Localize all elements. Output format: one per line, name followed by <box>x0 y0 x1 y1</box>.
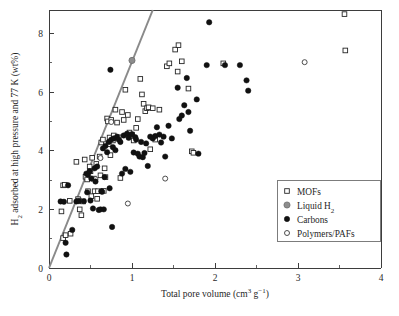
legend-label: MOFs <box>297 187 321 197</box>
data-point <box>173 47 178 52</box>
data-point <box>150 106 155 111</box>
data-point <box>102 166 107 171</box>
data-point <box>95 197 100 202</box>
data-point <box>93 179 98 184</box>
data-point <box>76 198 81 203</box>
legend[interactable]: MOFsLiquid H2CarbonsPolymers/PAFs <box>277 180 380 241</box>
y-tick-label: 4 <box>38 146 43 156</box>
data-point <box>191 150 196 155</box>
data-point <box>194 97 199 102</box>
data-point <box>107 186 112 191</box>
data-point <box>101 137 106 142</box>
data-point <box>123 87 128 92</box>
data-point <box>180 59 185 64</box>
legend-label: Carbons <box>297 215 328 225</box>
data-point <box>104 149 109 154</box>
data-point <box>109 224 114 229</box>
data-point <box>175 69 180 74</box>
data-point <box>145 163 150 168</box>
data-point <box>302 60 307 65</box>
series-carbons <box>58 20 251 258</box>
data-point <box>109 119 114 124</box>
x-tick-label: 3 <box>296 273 301 283</box>
data-point <box>246 88 251 93</box>
data-point <box>126 113 131 118</box>
data-point <box>64 252 69 257</box>
y-tick-label: 2 <box>38 205 43 215</box>
data-point <box>123 166 128 171</box>
x-tick-label: 4 <box>379 273 384 283</box>
y-tick-label: 6 <box>38 88 43 98</box>
series-liquid-h2 <box>129 57 135 63</box>
data-point <box>143 141 148 146</box>
data-point <box>65 183 70 188</box>
data-point <box>142 150 147 155</box>
data-point <box>244 78 249 83</box>
data-point <box>63 233 68 238</box>
data-point <box>343 48 348 53</box>
polymers-pafs-marker-icon <box>285 231 290 236</box>
data-point <box>87 169 92 174</box>
data-point <box>206 20 211 25</box>
data-point <box>186 109 191 114</box>
y-tick-label: 8 <box>38 29 43 39</box>
y-axis-title: H2 adsorbed at high pressure and 77 K (w… <box>10 53 24 226</box>
data-point <box>204 62 209 67</box>
mof-marker-icon <box>285 189 290 194</box>
data-point <box>187 128 192 133</box>
data-point <box>102 174 107 179</box>
data-point <box>88 198 93 203</box>
data-point <box>175 85 180 90</box>
data-point <box>74 160 79 165</box>
data-point <box>138 77 143 82</box>
data-point <box>166 123 171 128</box>
data-point <box>101 207 106 212</box>
plot-canvas: 0123402468 Total pore volume (cm3 g−1)H2… <box>0 0 399 316</box>
data-point <box>84 190 89 195</box>
data-point <box>167 61 172 66</box>
y-tick-label: 0 <box>38 264 43 274</box>
data-point <box>87 164 92 169</box>
data-point <box>169 136 174 141</box>
data-point <box>67 199 72 204</box>
data-point <box>154 125 159 130</box>
data-point <box>136 117 141 122</box>
data-point <box>59 209 64 214</box>
data-point <box>61 199 66 204</box>
data-point <box>186 86 191 91</box>
scatter-plot-figure: 0123402468 Total pore volume (cm3 g−1)H2… <box>0 0 399 316</box>
data-point <box>115 120 120 125</box>
data-point <box>118 139 123 144</box>
carbons-marker-icon <box>284 216 289 221</box>
data-point <box>119 171 124 176</box>
axes: 0123402468 <box>38 10 383 283</box>
data-point <box>138 139 143 144</box>
data-point <box>182 103 187 108</box>
data-point <box>81 198 86 203</box>
data-point <box>99 189 104 194</box>
data-point <box>158 140 163 145</box>
data-point <box>125 201 130 206</box>
legend-label: Polymers/PAFs <box>297 229 355 239</box>
data-point <box>237 62 242 67</box>
data-point <box>163 154 168 159</box>
data-point <box>82 157 87 162</box>
data-point <box>184 75 189 80</box>
data-point <box>108 67 113 72</box>
data-point <box>79 213 84 218</box>
data-point <box>176 43 181 48</box>
data-point <box>133 137 138 142</box>
data-point <box>129 57 135 63</box>
data-point <box>90 155 95 160</box>
x-tick-label: 1 <box>130 273 135 283</box>
data-point <box>128 169 133 174</box>
data-point <box>113 107 118 112</box>
liquid-h2-marker-icon <box>284 202 290 208</box>
data-point <box>63 240 68 245</box>
data-point <box>148 147 153 152</box>
data-point <box>121 118 126 123</box>
data-point <box>134 126 139 131</box>
data-point <box>342 12 347 17</box>
data-point <box>157 107 162 112</box>
data-point <box>113 147 118 152</box>
